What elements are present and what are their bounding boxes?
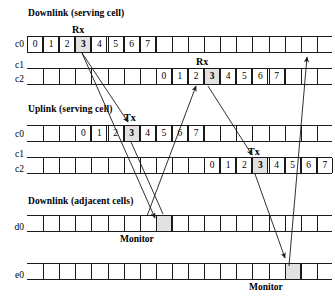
figure-canvas: Downlink (serving cell) c0 c1 c2 Rx Rx 0… — [0, 0, 335, 296]
arrow-dlc0-to-monitor-d0 — [82, 53, 155, 218]
arrow-ulc2-to-monitor-e0 — [255, 174, 285, 258]
arrow-layer — [0, 0, 335, 296]
arrow-d0-to-rxc2 — [147, 86, 196, 216]
arrow-ulc0-to-d0 — [131, 142, 163, 214]
arrow-rxc2-to-txc2 — [208, 86, 252, 155]
arrow-e0-to-upper-right — [289, 57, 307, 266]
arrow-dlc0-to-txc0 — [82, 53, 128, 122]
